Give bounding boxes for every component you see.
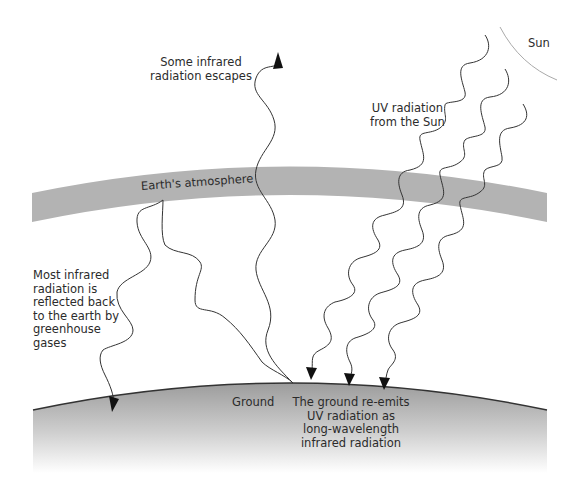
uv-wave-3 [385,104,527,383]
sun-arc [500,27,557,80]
uv-arrowhead-1 [306,367,317,380]
escaping-infrared-wave [255,62,293,383]
uv-radiation-label: UV radiation from the Sun [360,102,455,129]
ground-label: Ground [232,396,274,410]
sun-label: Sun [528,37,550,51]
reemits-label: The ground re-emits UV radiation as long… [286,396,416,450]
escapes-label: Some infrared radiation escapes [146,56,256,83]
reflected-label: Most infrared radiation is reflected bac… [33,269,119,350]
reflected-wave-up [162,200,293,383]
atmosphere-band [32,167,547,223]
escaping-arrowhead [273,52,283,69]
